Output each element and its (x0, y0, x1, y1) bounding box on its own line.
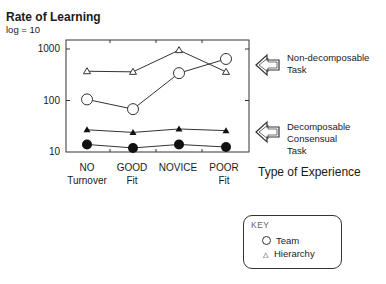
legend-key: KEY Team △Hierarchy (243, 215, 342, 269)
annotation-non-decomposable: Non-decomposable Task (287, 52, 369, 76)
series-line (87, 59, 226, 109)
annotation-line: Task (287, 145, 350, 157)
filled-circle-marker (128, 143, 138, 153)
x-axis-label: Type of Experience (258, 165, 361, 179)
legend-label: Team (276, 235, 299, 246)
legend-item-team: Team (262, 235, 299, 246)
xcat-line: Fit (102, 174, 162, 187)
legend-item-hierarchy: △Hierarchy (263, 248, 315, 259)
annotation-line: Task (287, 64, 369, 76)
open-triangle-icon: △ (263, 251, 268, 258)
xcat-line: Fit (194, 174, 254, 187)
open-circle-marker (128, 104, 139, 115)
filled-circle-marker (221, 142, 231, 152)
filled-triangle-marker (176, 125, 183, 131)
xcat-line: POOR (194, 161, 254, 174)
open-triangle-marker (176, 47, 183, 53)
filled-circle-marker (82, 139, 92, 149)
xcat-poor-fit: POOR Fit (194, 161, 254, 187)
open-circle-icon (262, 236, 271, 245)
filled-triangle-marker (84, 126, 91, 132)
series-line (87, 129, 226, 132)
series-line (87, 144, 226, 147)
annotation-line: Consensual (287, 133, 350, 145)
annotation-decomposable: Decomposable Consensual Task (287, 121, 350, 157)
open-triangle-marker (84, 68, 91, 74)
series-line (87, 50, 226, 72)
legend-title: KEY (251, 220, 270, 230)
open-circle-marker (221, 53, 232, 64)
legend-label: Hierarchy (274, 248, 315, 259)
open-circle-marker (82, 94, 93, 105)
annotation-line: Non-decomposable (287, 52, 369, 64)
open-triangle-marker (223, 68, 230, 74)
open-circle-marker (174, 68, 185, 79)
annotation-line: Decomposable (287, 121, 350, 133)
filled-circle-marker (174, 139, 184, 149)
